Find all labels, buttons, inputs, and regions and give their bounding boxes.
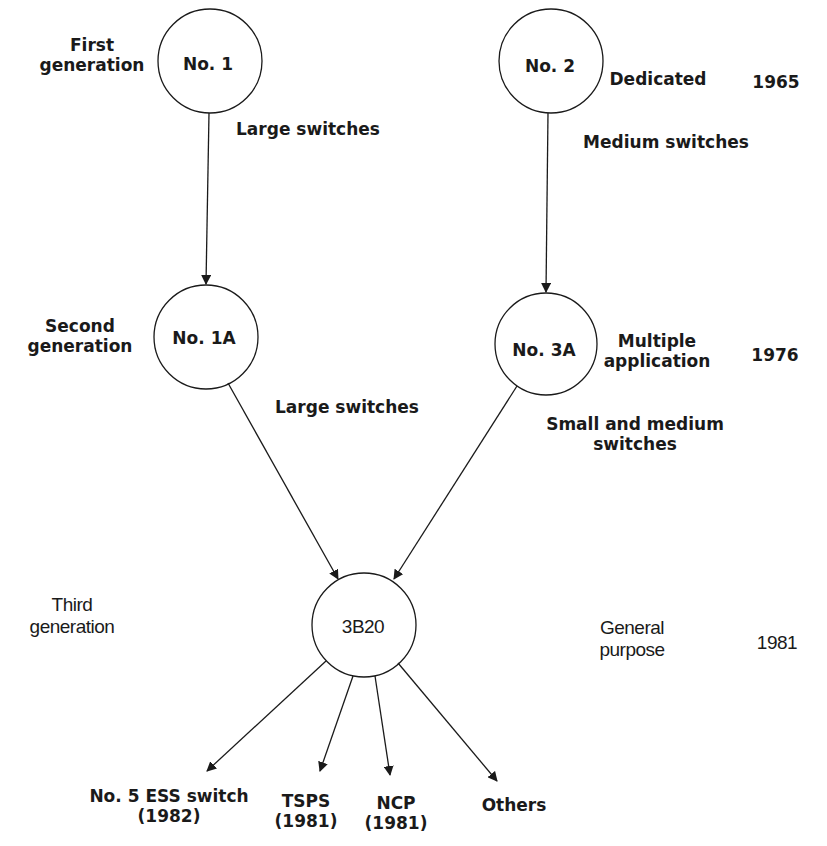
output-ncp-year: (1981) xyxy=(365,813,428,833)
output-others-name: Others xyxy=(482,795,547,815)
generation-second-line2: generation xyxy=(28,336,133,356)
generation-second-label: Second generation xyxy=(28,316,133,356)
year-1965: 1965 xyxy=(752,72,799,92)
output-tsps-name: TSPS xyxy=(275,791,338,811)
edge-3b20-to-no5ess xyxy=(207,661,326,771)
output-ncp-name: NCP xyxy=(365,793,428,813)
generation-second-line1: Second xyxy=(28,316,133,336)
edge-no2-to-no3a xyxy=(546,113,548,292)
output-no5-ess-name: No. 5 ESS switch xyxy=(89,786,248,806)
edge-3b20-to-tsps xyxy=(320,676,353,771)
generation-third-line2: generation xyxy=(30,616,115,638)
edge-label-no1a-large-switches: Large switches xyxy=(275,397,419,417)
node-no2-label: No. 2 xyxy=(525,56,575,76)
output-tsps: TSPS (1981) xyxy=(275,791,338,831)
edge-label-no3a-small-medium: Small and medium switches xyxy=(546,414,724,454)
output-tsps-year: (1981) xyxy=(275,811,338,831)
year-1981: 1981 xyxy=(757,632,797,654)
year-1976: 1976 xyxy=(751,345,798,365)
output-no5-ess-year: (1982) xyxy=(89,806,248,826)
output-others: Others xyxy=(482,795,547,815)
generation-first-line2: generation xyxy=(40,55,145,75)
node-3b20-label: 3B20 xyxy=(342,616,384,638)
generation-third-line1: Third xyxy=(30,594,115,616)
node-no1a-label: No. 1A xyxy=(172,328,235,348)
descriptor-general-line1: General xyxy=(599,617,664,639)
descriptor-multiple-line1: Multiple xyxy=(604,331,711,351)
edge-label-no3a-line2: switches xyxy=(546,434,724,454)
descriptor-dedicated: Dedicated xyxy=(609,69,706,89)
descriptor-multiple-line2: application xyxy=(604,351,711,371)
descriptor-general-line2: purpose xyxy=(599,639,664,661)
edge-3b20-to-others xyxy=(398,663,497,781)
node-no3a-label: No. 3A xyxy=(512,340,575,360)
edge-label-no1-large-switches: Large switches xyxy=(236,119,380,139)
generation-first-label: First generation xyxy=(40,35,145,75)
descriptor-general-purpose: General purpose xyxy=(599,617,664,661)
generation-first-line1: First xyxy=(40,35,145,55)
edge-label-no3a-line1: Small and medium xyxy=(546,414,724,434)
output-no5-ess: No. 5 ESS switch (1982) xyxy=(89,786,248,826)
edge-3b20-to-ncp xyxy=(375,676,390,775)
edge-no1-to-no1a xyxy=(206,113,209,284)
edge-label-no2-medium-switches: Medium switches xyxy=(583,132,749,152)
output-ncp: NCP (1981) xyxy=(365,793,428,833)
node-no1-label: No. 1 xyxy=(183,54,233,74)
generation-third-label: Third generation xyxy=(30,594,115,638)
descriptor-multiple-application: Multiple application xyxy=(604,331,711,371)
